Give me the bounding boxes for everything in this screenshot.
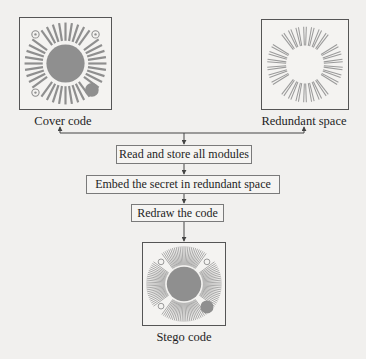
step-embed-secret: Embed the secret in redundant space [86, 175, 280, 194]
stego-code-image [142, 242, 226, 326]
cover-code-label: Cover code [13, 114, 113, 129]
redundant-space-image [261, 19, 349, 110]
radial-code-dense-icon [143, 243, 225, 325]
radial-code-redundant-only-icon [262, 20, 348, 109]
redundant-space-label: Redundant space [244, 114, 364, 129]
step-redraw-code: Redraw the code [131, 204, 224, 222]
step-read-store-modules: Read and store all modules [116, 145, 252, 164]
cover-code-image [19, 17, 112, 110]
radial-code-full-icon [20, 18, 111, 109]
stego-code-label: Stego code [134, 330, 234, 345]
